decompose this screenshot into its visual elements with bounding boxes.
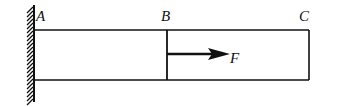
bar-segment-ab (34, 30, 167, 80)
cantilever-diagram: A B C F (0, 0, 338, 107)
fixed-wall-support (27, 5, 34, 105)
label-c: C (299, 8, 310, 24)
force-arrow-icon (167, 48, 230, 60)
label-b: B (161, 8, 170, 24)
label-a: A (35, 8, 46, 24)
diagram: A B C F (0, 0, 338, 107)
label-force: F (229, 50, 240, 66)
